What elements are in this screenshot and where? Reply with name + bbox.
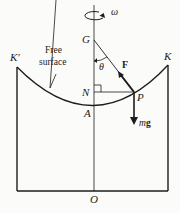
omega-label: ω — [111, 6, 118, 17]
vessel — [17, 65, 168, 191]
label-K: K — [163, 50, 172, 62]
free-surface-pointer — [50, 0, 56, 88]
free-surface-curve — [17, 65, 168, 106]
weight-arrowhead-icon — [130, 117, 138, 125]
label-g: g — [146, 118, 151, 128]
rotation-arrow-icon — [85, 12, 107, 20]
label-A: A — [83, 107, 91, 119]
label-N: N — [81, 86, 90, 98]
label-K-prime: K′ — [9, 51, 20, 63]
theta-arrowhead-icon — [94, 58, 97, 63]
rotating-fluid-diagram: ω G K′ K Free surface θ F N P A m g O — [0, 0, 180, 213]
force-F-arrow — [120, 74, 134, 92]
label-free: Free — [45, 45, 62, 55]
label-O: O — [90, 193, 98, 205]
label-theta: θ — [99, 61, 104, 72]
label-P: P — [136, 91, 144, 103]
label-surface: surface — [39, 57, 66, 67]
label-m: m — [139, 118, 146, 128]
right-angle-marker — [94, 85, 101, 92]
label-G: G — [82, 33, 90, 45]
label-F: F — [122, 59, 128, 70]
